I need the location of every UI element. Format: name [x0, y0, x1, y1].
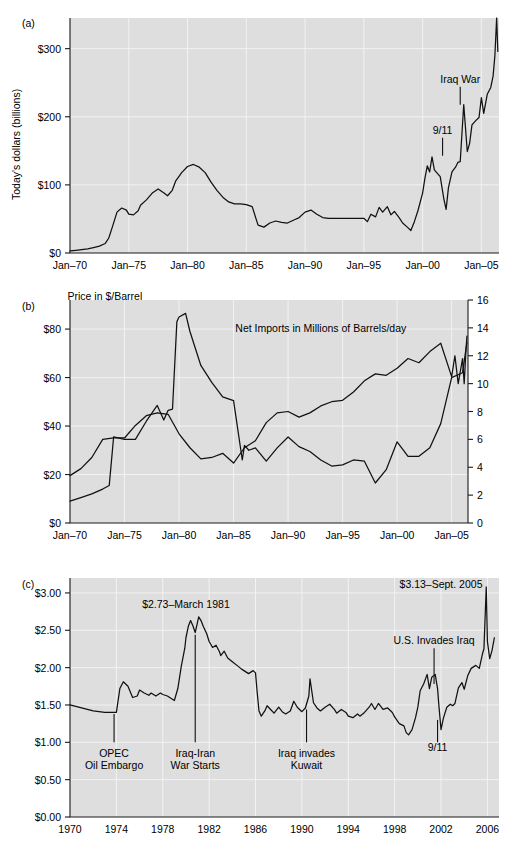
panel-c-ytick-1: $0.50: [35, 774, 61, 786]
oil-and-gas-price-figure: $0$100$200$300Jan–70Jan–75Jan–80Jan–85Ja…: [0, 0, 516, 845]
panel-b-xtick-2: Jan–80: [162, 529, 197, 541]
panel-c-svg: $0.00$0.50$1.00$1.50$2.00$2.50$3.0019701…: [0, 566, 516, 845]
panel-c-xtick-0: 1970: [58, 823, 82, 835]
panel-c-xtick-5: 1990: [290, 823, 314, 835]
panel-c-xtick-1: 1974: [105, 823, 129, 835]
panel-c-retail-gasoline-price: $0.00$0.50$1.00$1.50$2.00$2.50$3.0019701…: [0, 566, 516, 845]
panel-c-xtick-9: 2006: [476, 823, 500, 835]
panel-b-ytick-right-7: 14: [477, 322, 489, 334]
panel-c-ytick-5: $2.50: [35, 624, 61, 636]
panel-b-svg: $0$20$40$60$800246810121416Jan–70Jan–75J…: [0, 288, 516, 566]
panel-b-ytick-left-2: $40: [43, 420, 61, 432]
panel-a-ytick-1: $100: [38, 179, 62, 191]
panel-c-letter: (c): [22, 578, 34, 590]
panel-b-annotation-1: Net Imports in Millions of Barrels/day: [235, 322, 407, 334]
panel-a-value-of-oil-imports: $0$100$200$300Jan–70Jan–75Jan–80Jan–85Ja…: [0, 0, 516, 288]
panel-b-ytick-right-5: 10: [477, 378, 489, 390]
panel-a-annotation-0: 9/11: [433, 124, 453, 136]
panel-b-xtick-5: Jan–95: [325, 529, 360, 541]
panel-b-ytick-right-4: 8: [477, 406, 483, 418]
panel-a-xtick-6: Jan–00: [405, 259, 440, 271]
panel-a-ytick-3: $300: [38, 43, 62, 55]
panel-a-annotation-1: Iraq War: [440, 73, 480, 85]
panel-c-ytick-3: $1.50: [35, 699, 61, 711]
panel-c-xtick-4: 1986: [244, 823, 268, 835]
panel-b-xtick-1: Jan–75: [107, 529, 142, 541]
panel-c-annotation-2-line-0: Iraq invades: [278, 747, 335, 759]
panel-c-ytick-2: $1.00: [35, 736, 61, 748]
panel-c-annotation-3-line-0: 9/11: [428, 741, 448, 753]
panel-b-ytick-right-2: 4: [477, 461, 483, 473]
panel-c-ytick-4: $2.00: [35, 662, 61, 674]
panel-c-annotation-4-line-0: $2.73–March 1981: [142, 598, 230, 610]
panel-c-annotation-0-line-1: Oil Embargo: [85, 759, 144, 771]
panel-c-annotation-5-line-0: U.S. Invades Iraq: [394, 634, 475, 646]
panel-c-annotation-1-line-1: War Starts: [171, 759, 220, 771]
panel-b-ytick-left-0: $0: [49, 517, 61, 529]
panel-b-ytick-right-0: 0: [477, 517, 483, 529]
panel-b-ytick-left-3: $60: [43, 372, 61, 384]
panel-b-xtick-7: Jan–05: [434, 529, 469, 541]
panel-b-ytick-left-4: $80: [43, 323, 61, 335]
panel-a-xtick-5: Jan–95: [347, 259, 382, 271]
panel-a-xtick-4: Jan–90: [288, 259, 323, 271]
panel-c-xtick-7: 1998: [383, 823, 407, 835]
panel-a-xtick-1: Jan–75: [112, 259, 147, 271]
panel-c-annotation-6-line-0: $3.13–Sept. 2005: [400, 578, 483, 590]
panel-b-xtick-0: Jan–70: [53, 529, 88, 541]
panel-c-annotation-2-line-1: Kuwait: [291, 759, 323, 771]
panel-a-letter: (a): [22, 17, 35, 29]
panel-b-xtick-3: Jan–85: [216, 529, 251, 541]
panel-c-xtick-8: 2002: [429, 823, 453, 835]
panel-a-ytick-2: $200: [38, 111, 62, 123]
panel-b-annotation-0: Price in $/Barrel: [68, 290, 143, 302]
panel-b-price-and-imports: $0$20$40$60$800246810121416Jan–70Jan–75J…: [0, 288, 516, 566]
panel-b-ytick-right-3: 6: [477, 433, 483, 445]
panel-a-xtick-2: Jan–80: [170, 259, 205, 271]
panel-a-y-axis-title: Today's dollars (billions): [10, 89, 22, 200]
panel-a-xtick-3: Jan–85: [229, 259, 264, 271]
panel-b-xtick-4: Jan–90: [271, 529, 306, 541]
panel-b-letter: (b): [22, 300, 35, 312]
panel-b-ytick-right-6: 12: [477, 350, 489, 362]
panel-c-xtick-2: 1978: [151, 823, 175, 835]
panel-a-ytick-0: $0: [49, 247, 61, 259]
panel-c-ytick-6: $3.00: [35, 587, 61, 599]
panel-b-ytick-right-8: 16: [477, 294, 489, 306]
panel-c-ytick-0: $0.00: [35, 811, 61, 823]
panel-a-xtick-0: Jan–70: [53, 259, 88, 271]
panel-c-xtick-6: 1994: [337, 823, 361, 835]
panel-b-ytick-left-1: $20: [43, 469, 61, 481]
panel-a-svg: $0$100$200$300Jan–70Jan–75Jan–80Jan–85Ja…: [0, 0, 516, 288]
panel-a-xtick-7: Jan–05: [464, 259, 499, 271]
panel-c-annotation-1-line-0: Iraq-Iran: [175, 747, 215, 759]
panel-b-ytick-right-1: 2: [477, 489, 483, 501]
panel-c-annotation-0-line-0: OPEC: [99, 747, 129, 759]
panel-b-xtick-6: Jan–00: [380, 529, 415, 541]
panel-c-xtick-3: 1982: [197, 823, 221, 835]
